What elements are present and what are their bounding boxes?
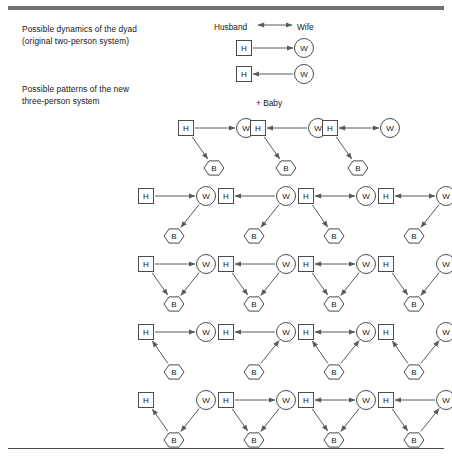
node-label: W bbox=[362, 328, 370, 337]
node-label: H bbox=[303, 192, 309, 201]
edge-w-to-b bbox=[341, 409, 359, 432]
node-label: H bbox=[255, 124, 261, 133]
triad-diagram: HWB bbox=[251, 119, 328, 176]
node-label: B bbox=[331, 300, 336, 309]
node-label: B bbox=[251, 300, 256, 309]
node-label: W bbox=[282, 260, 290, 269]
node-label: H bbox=[183, 124, 189, 133]
node-label: H bbox=[241, 70, 247, 79]
node-label: B bbox=[283, 164, 288, 173]
node-label: H bbox=[327, 124, 333, 133]
edge-h-to-b bbox=[232, 273, 247, 295]
edge-b-to-w bbox=[341, 341, 359, 364]
node-label: W bbox=[282, 396, 290, 405]
edge-h-to-b bbox=[336, 137, 351, 159]
bottom-rule bbox=[8, 448, 444, 449]
node-label: B bbox=[171, 232, 176, 241]
node-label: H bbox=[143, 328, 149, 337]
edge-b-to-h bbox=[392, 341, 407, 363]
triad-diagram: HWB bbox=[379, 391, 452, 448]
triad-diagram: HWB bbox=[299, 255, 376, 312]
node-label: W bbox=[300, 70, 308, 79]
node-label: H bbox=[223, 396, 229, 405]
node-label: H bbox=[223, 260, 229, 269]
edge-w-to-b bbox=[341, 273, 359, 296]
node-label: H bbox=[303, 396, 309, 405]
node-label: B bbox=[171, 368, 176, 377]
node-label: H bbox=[143, 260, 149, 269]
node-label: W bbox=[282, 328, 290, 337]
node-label: W bbox=[442, 328, 450, 337]
node-label: H bbox=[303, 328, 309, 337]
node-label: B bbox=[411, 300, 416, 309]
edge-b-to-w bbox=[261, 341, 279, 364]
edge-h-to-b bbox=[152, 273, 167, 295]
triad-diagram: HWB bbox=[299, 391, 376, 448]
dyad-diagram-layer: HWHW bbox=[237, 39, 314, 84]
node-label: B bbox=[251, 368, 256, 377]
node-label: H bbox=[223, 328, 229, 337]
triad-diagram: HWB bbox=[323, 119, 400, 176]
edge-h-to-b bbox=[232, 409, 247, 431]
edge-h-to-b bbox=[312, 273, 327, 295]
node-label: H bbox=[383, 328, 389, 337]
triad-diagram: HWB bbox=[299, 323, 376, 380]
triad-diagram: HWB bbox=[379, 255, 452, 312]
triad-diagram: HWB bbox=[379, 187, 452, 244]
edge-b-to-h bbox=[152, 341, 167, 363]
node-label: B bbox=[251, 436, 256, 445]
edge-w-to-b bbox=[181, 409, 199, 432]
node-label: W bbox=[362, 396, 370, 405]
triad-diagram: HWB bbox=[139, 187, 216, 244]
edge-h-to-b bbox=[312, 409, 327, 431]
triad-diagram-layer: HWBHWBHWBHWBHWBHWBHWBHWBHWBHWBHWBHWBHWBH… bbox=[139, 119, 452, 448]
triad-diagram: HWB bbox=[139, 391, 216, 448]
node-label: B bbox=[171, 436, 176, 445]
dyad-diagram: HW bbox=[237, 65, 314, 84]
node-label: B bbox=[331, 368, 336, 377]
node-label: W bbox=[442, 260, 450, 269]
node-label: H bbox=[241, 44, 247, 53]
node-label: B bbox=[411, 368, 416, 377]
node-label: B bbox=[411, 232, 416, 241]
triad-diagram: HWB bbox=[219, 187, 296, 244]
triad-diagram: HWB bbox=[219, 323, 296, 380]
node-label: B bbox=[411, 436, 416, 445]
triad-diagram: HWB bbox=[139, 255, 216, 312]
node-label: H bbox=[143, 396, 149, 405]
figure-page: Possible dynamics of the dyad (original … bbox=[0, 0, 452, 468]
triad-diagram: HWB bbox=[219, 391, 296, 448]
edge-h-to-b bbox=[264, 137, 279, 159]
triad-diagram: HWB bbox=[139, 323, 216, 380]
node-label: B bbox=[251, 232, 256, 241]
node-label: W bbox=[362, 260, 370, 269]
node-label: W bbox=[442, 192, 450, 201]
triad-diagram: HWB bbox=[379, 323, 452, 380]
node-label: W bbox=[202, 328, 210, 337]
edge-w-to-b bbox=[261, 409, 279, 432]
node-label: B bbox=[355, 164, 360, 173]
triad-diagram: HWB bbox=[299, 187, 376, 244]
node-label: H bbox=[383, 260, 389, 269]
node-label: H bbox=[303, 260, 309, 269]
node-label: H bbox=[383, 192, 389, 201]
node-label: B bbox=[171, 300, 176, 309]
node-label: W bbox=[202, 396, 210, 405]
edge-b-to-w bbox=[421, 409, 439, 432]
edge-w-to-b bbox=[421, 273, 439, 296]
edge-w-to-b bbox=[261, 273, 279, 296]
node-label: B bbox=[331, 232, 336, 241]
node-label: W bbox=[386, 124, 394, 133]
node-label: W bbox=[442, 396, 450, 405]
triad-diagram: HWB bbox=[219, 255, 296, 312]
edge-b-to-h bbox=[152, 409, 167, 431]
node-label: B bbox=[331, 436, 336, 445]
triad-diagram: HWB bbox=[179, 119, 256, 176]
edge-h-to-b bbox=[192, 137, 207, 159]
edge-b-to-w bbox=[421, 341, 439, 364]
edge-w-to-b bbox=[421, 205, 439, 228]
node-label: W bbox=[242, 124, 250, 133]
node-label: W bbox=[202, 192, 210, 201]
edge-h-to-b bbox=[312, 205, 327, 227]
node-label: W bbox=[314, 124, 322, 133]
